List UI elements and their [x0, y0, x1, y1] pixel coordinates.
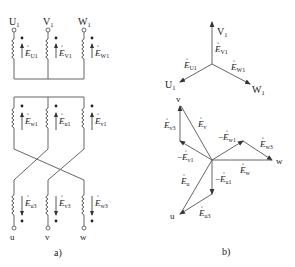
emf-label-neg-Eu1: −Eu1 [215, 174, 232, 185]
emf-label-Ew3: Ew3 [259, 139, 273, 150]
label-W1: W1 [78, 16, 91, 28]
tip-label-V1: V1 [217, 26, 227, 38]
polarity-dot [91, 220, 94, 223]
emf-label-u1: Eu1 [58, 116, 71, 127]
label-U1: U1 [9, 16, 19, 28]
emf-label-EU1: EU1 [183, 60, 197, 71]
secondary-star: v w u Ev Ev3 −Ev1 −Ew1 Ew3 Ew Eu −Eu1 Eu… [163, 94, 283, 221]
coil-w1 [12, 108, 14, 128]
tip-label-U1: U1 [165, 79, 175, 91]
polarity-dot [55, 220, 58, 223]
emf-label-W1: EW1 [94, 48, 109, 59]
emf-label-Eu3: Eu3 [198, 208, 211, 219]
panel-a-circuit: U1 V1 W1 EU1 EV1 EW1 Ew1 Eu1 Ev1 Eu3 Ev3… [9, 16, 109, 259]
emf-label-Eu: Eu [180, 176, 190, 187]
terminal-W1 [82, 28, 86, 32]
polarity-dot [21, 37, 24, 40]
emf-label-u3: Eu3 [24, 198, 37, 209]
label-V1: V1 [43, 16, 53, 28]
coil-W1 [82, 39, 84, 59]
label-u: u [10, 232, 15, 242]
coil-w3 [82, 195, 84, 215]
terminal-V1 [46, 28, 50, 32]
terminal-U1 [12, 28, 16, 32]
transformer-diagram: U1 V1 W1 EU1 EV1 EW1 Ew1 Eu1 Ev1 Eu3 Ev3… [0, 0, 295, 267]
panel-a-labels: U1 V1 W1 EU1 EV1 EW1 Ew1 Eu1 Ev1 Eu3 Ev3… [9, 16, 109, 259]
polarity-dot [21, 105, 24, 108]
terminal-v [46, 226, 50, 230]
phasor-Eu3 [180, 194, 212, 214]
emf-label-EV1: EV1 [214, 44, 228, 55]
polarity-dot [21, 220, 24, 223]
caption-b: b) [222, 246, 230, 258]
polarity-dot [91, 105, 94, 108]
polarity-dot [55, 37, 58, 40]
panel-b-phasor-diagram: V1 U1 W1 EV1 EU1 EW1 v w u [163, 22, 283, 258]
tip-label-v: v [176, 94, 181, 104]
emf-label-Ew: Ew [239, 165, 251, 176]
coil-v3 [46, 195, 48, 215]
emf-label-Ev: Ev [197, 119, 207, 130]
polarity-dot [91, 37, 94, 40]
emf-label-EW1: EW1 [230, 62, 245, 73]
emf-label-w1: Ew1 [24, 116, 38, 127]
coil-V1 [46, 39, 48, 59]
emf-label-v1: Ev1 [94, 116, 107, 127]
label-w: w [80, 232, 87, 242]
emf-label-Ev3: Ev3 [163, 120, 176, 131]
emf-label-neg-Ew1: −Ew1 [218, 132, 236, 143]
emf-label-w3: Ew3 [94, 198, 108, 209]
coil-U1 [12, 39, 14, 59]
emf-label-V1: EV1 [58, 48, 72, 59]
emf-label-U1: EU1 [24, 48, 38, 59]
primary-star: V1 U1 W1 EV1 EU1 EW1 [165, 22, 265, 96]
terminal-w [82, 226, 86, 230]
caption-a: a) [54, 247, 62, 259]
phasor-neg-Ew1 [212, 141, 243, 160]
coil-v1 [82, 108, 84, 128]
terminal-u [12, 226, 16, 230]
emf-label-neg-Ev1: −Ev1 [177, 152, 194, 163]
polarity-dot [55, 105, 58, 108]
crossover-wires [14, 145, 84, 185]
tip-label-w: w [276, 156, 283, 166]
coil-u1 [46, 108, 48, 128]
emf-label-v3: Ev3 [58, 198, 71, 209]
label-v: v [45, 232, 50, 242]
tip-label-u: u [170, 211, 175, 221]
tip-label-W1: W1 [252, 84, 265, 96]
coil-u3 [12, 195, 14, 215]
